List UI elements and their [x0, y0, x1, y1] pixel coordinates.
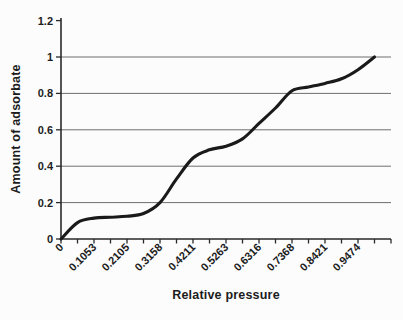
- x-tick-label: 0.1053: [66, 241, 98, 273]
- y-tick-label: 0.4: [38, 160, 54, 172]
- x-tick-label: 0.3158: [132, 241, 164, 273]
- x-tick-label: 0.8421: [297, 241, 329, 273]
- x-tick-label: 0.7368: [264, 241, 296, 273]
- x-tick-label: 0.2105: [99, 241, 131, 273]
- y-tick-label: 0.2: [38, 197, 53, 209]
- x-tick-label: 0.6316: [231, 241, 263, 273]
- x-tick-label: 0: [53, 241, 66, 254]
- x-tick-label: 0.9474: [330, 240, 363, 273]
- y-axis-title: Amount of adsorbate: [9, 49, 23, 209]
- adsorption-isotherm-figure: 00.20.40.60.811.200.10530.21050.31580.42…: [0, 0, 403, 320]
- chart-canvas: 00.20.40.60.811.200.10530.21050.31580.42…: [0, 0, 403, 320]
- x-tick-label: 0.4211: [166, 241, 198, 273]
- y-tick-label: 1.2: [38, 15, 53, 27]
- y-tick-label: 0: [47, 233, 53, 245]
- x-tick-label: 0.5263: [198, 241, 230, 273]
- y-tick-label: 0.8: [38, 87, 53, 99]
- y-tick-label: 0.6: [38, 124, 53, 136]
- y-tick-label: 1: [47, 51, 53, 63]
- x-axis-title: Relative pressure: [61, 288, 391, 302]
- isotherm-curve: [61, 57, 375, 239]
